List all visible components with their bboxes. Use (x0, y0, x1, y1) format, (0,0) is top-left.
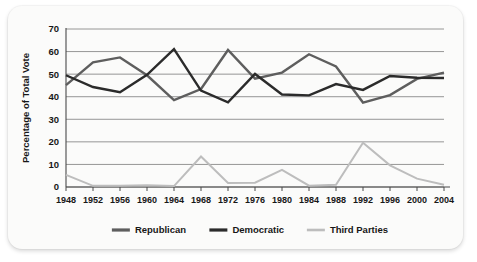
y-axis-tick-label: 30 (48, 114, 59, 125)
x-axis-tick-label: 2004 (434, 195, 454, 205)
legend-label-republican: Republican (135, 224, 186, 235)
x-axis-tick-label: 1988 (326, 195, 346, 205)
legend-group: RepublicanDemocraticThird Parties (112, 224, 388, 235)
legend-label-third-parties: Third Parties (330, 224, 388, 235)
x-axis-tick-label: 1948 (56, 195, 76, 205)
x-axis-tick-label: 1980 (272, 195, 292, 205)
x-axis-tick-label: 1968 (191, 195, 211, 205)
x-axis-tick-label: 1996 (380, 195, 400, 205)
x-axis-tick-label: 1964 (164, 195, 184, 205)
y-axis-tick-label: 40 (48, 91, 59, 102)
series-group (66, 49, 444, 186)
y-axis-tick-label: 10 (48, 159, 59, 170)
y-axis-tick-label: 60 (48, 46, 59, 57)
x-axis-tick-label: 1972 (218, 195, 238, 205)
x-axis-tick-label: 1952 (83, 195, 103, 205)
series-line-democratic (66, 49, 444, 102)
x-axis-tick-label: 2000 (407, 195, 427, 205)
y-axis-tick-label: 20 (48, 136, 59, 147)
chart-card: 010203040506070 194819521956196019641968… (8, 6, 463, 249)
x-axis-tick-label: 1976 (245, 195, 265, 205)
x-axis-tick-label: 1984 (299, 195, 319, 205)
y-axis-title: Percentage of Total Vote (20, 53, 31, 163)
y-axis-tick-label: 50 (48, 69, 59, 80)
y-axis-tick-label: 0 (54, 181, 59, 192)
x-axis-tick-label: 1992 (353, 195, 373, 205)
x-axis-group: 1948195219561960196419681972197619801984… (56, 187, 454, 205)
x-axis-tick-label: 1960 (137, 195, 157, 205)
y-axis-group: 010203040506070 (48, 23, 66, 192)
y-axis-title-group: Percentage of Total Vote (20, 53, 31, 163)
x-axis-tick-label: 1956 (110, 195, 130, 205)
vote-percentage-line-chart: 010203040506070 194819521956196019641968… (8, 6, 463, 249)
legend-label-democratic: Democratic (232, 224, 284, 235)
y-axis-tick-label: 70 (48, 23, 59, 34)
